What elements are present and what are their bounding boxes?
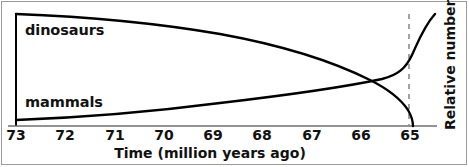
x-tick-label-65: 65	[400, 127, 419, 143]
x-tick-label-68: 68	[252, 127, 271, 143]
series-label-dinosaurs: dinosaurs	[25, 22, 104, 38]
x-tick-label-67: 67	[302, 127, 321, 143]
figure-root: dinosaurs mammals 73 72 71 70 69 68 67 6…	[0, 0, 469, 167]
x-tick-label-71: 71	[105, 127, 124, 143]
y-axis-title: Relative numbers	[441, 10, 459, 130]
series-label-mammals: mammals	[25, 94, 103, 110]
x-tick-label-69: 69	[203, 127, 222, 143]
x-tick-label-66: 66	[351, 127, 370, 143]
x-tick-label-72: 72	[55, 127, 74, 143]
x-tick-label-70: 70	[154, 127, 173, 143]
x-tick-label-73: 73	[6, 127, 25, 143]
x-axis-title: Time (million years ago)	[0, 145, 420, 161]
